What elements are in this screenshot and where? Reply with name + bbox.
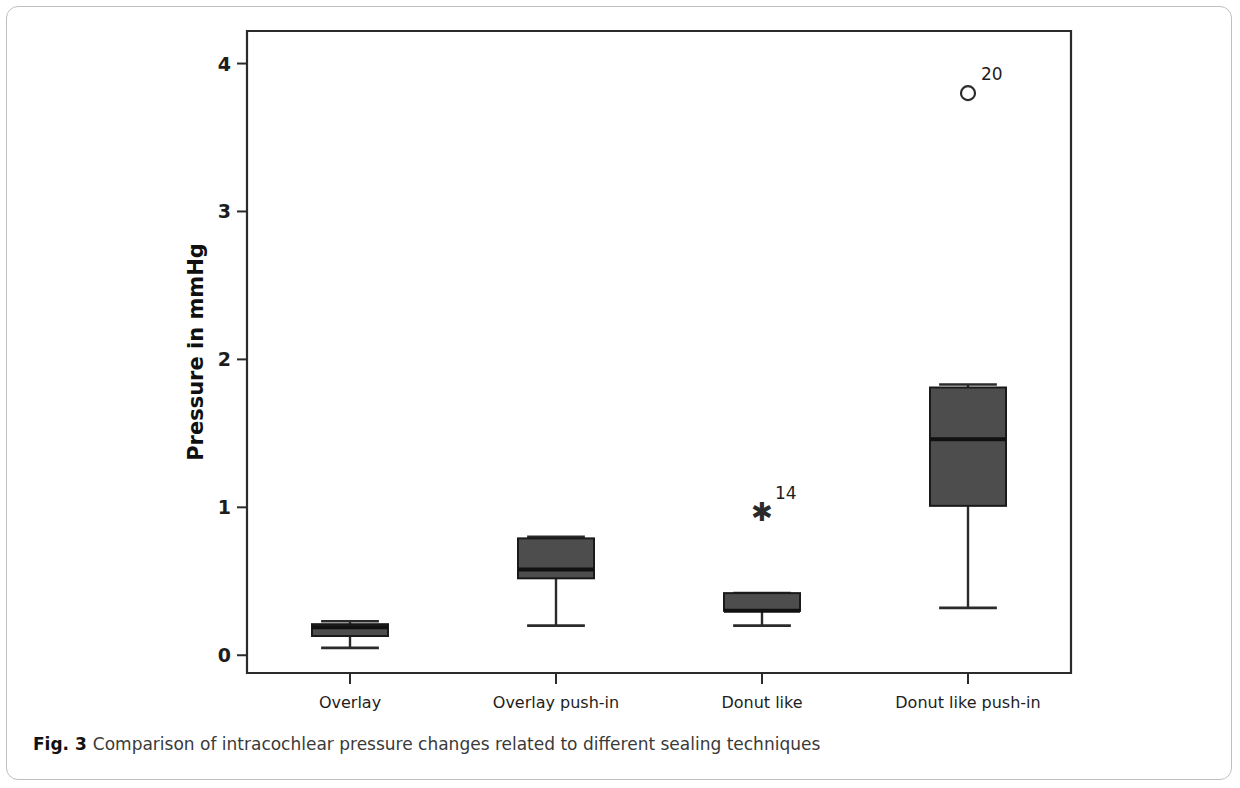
boxplot-chart: 01234Pressure in mmHgOverlayOverlay push… bbox=[7, 7, 1233, 711]
outlier-label: 14 bbox=[775, 483, 797, 503]
outlier-star: ✱ bbox=[751, 497, 773, 527]
outlier-circle bbox=[961, 86, 975, 100]
x-axis-tick-label: Donut like push-in bbox=[895, 693, 1040, 711]
x-axis-tick-label: Donut like bbox=[721, 693, 802, 711]
plot-frame bbox=[247, 31, 1071, 673]
x-axis-tick-label: Overlay bbox=[319, 693, 381, 711]
figure-caption-label: Fig. 3 bbox=[33, 734, 87, 754]
y-axis-tick-label: 3 bbox=[218, 200, 231, 222]
x-axis-tick-label: Overlay push-in bbox=[493, 693, 619, 711]
outlier-label: 20 bbox=[981, 64, 1003, 84]
figure-caption: Fig. 3Comparison of intracochlear pressu… bbox=[33, 733, 1213, 755]
figure-card: 01234Pressure in mmHgOverlayOverlay push… bbox=[6, 6, 1232, 780]
y-axis-tick-label: 0 bbox=[218, 644, 231, 666]
figure-caption-text: Comparison of intracochlear pressure cha… bbox=[93, 734, 820, 754]
chart-canvas: 01234Pressure in mmHgOverlayOverlay push… bbox=[7, 7, 1233, 711]
y-axis-tick-label: 4 bbox=[218, 53, 231, 75]
y-axis-tick-label: 2 bbox=[218, 348, 231, 370]
box-3 bbox=[724, 593, 800, 611]
y-axis-tick-label: 1 bbox=[218, 496, 231, 518]
box-4 bbox=[930, 388, 1006, 506]
box-2 bbox=[518, 538, 594, 578]
y-axis-title: Pressure in mmHg bbox=[184, 243, 208, 461]
